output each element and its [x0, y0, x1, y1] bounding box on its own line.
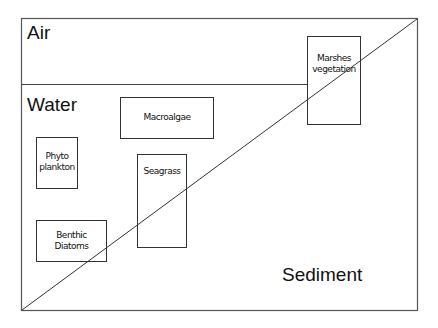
marshes-label-line1: Marshes [308, 53, 360, 64]
zone-label-sediment: Sediment [282, 265, 362, 284]
macroalgae-label: Macroalgae [121, 112, 213, 123]
box-phytoplankton: Phyto plankton [36, 137, 78, 189]
box-seagrass: Seagrass [137, 154, 187, 248]
marshes-label-line2: vegetation [308, 64, 360, 75]
zone-label-water: Water [27, 95, 77, 114]
phytoplankton-label-line1: Phyto [37, 151, 77, 162]
zone-label-air: Air [27, 23, 50, 42]
phytoplankton-label-line2: plankton [37, 162, 77, 173]
benthic-label-line1: Benthic [37, 230, 106, 241]
box-marshes-vegetation: Marshes vegetation [307, 36, 361, 125]
seagrass-label: Seagrass [138, 166, 186, 177]
box-benthic-diatoms: Benthic Diatoms [36, 220, 107, 262]
box-macroalgae: Macroalgae [120, 97, 214, 139]
benthic-label-line2: Diatoms [37, 241, 106, 252]
